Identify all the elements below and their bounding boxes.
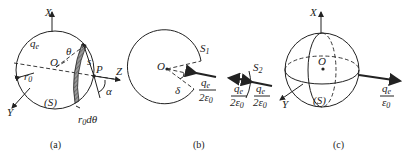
svg-text:qe: qe <box>201 76 211 90</box>
label-x-axis: X <box>44 6 53 18</box>
svg-text:2ε0: 2ε0 <box>199 91 213 105</box>
label-origin: O <box>50 56 58 68</box>
caption-c: (c) <box>333 139 344 151</box>
label-origin-b: O <box>157 60 165 72</box>
label-alpha: α <box>106 85 112 97</box>
svg-text:2ε0: 2ε0 <box>253 96 267 110</box>
surface-s2 <box>246 71 250 98</box>
svg-text:qe: qe <box>382 82 392 96</box>
flux-fraction-1: qe 2ε0 <box>199 76 216 105</box>
flux-fraction-2: qe 2ε0 <box>230 82 247 110</box>
label-theta: θ <box>66 45 72 57</box>
label-ring-width: r0dθ <box>78 113 98 127</box>
caption-b: (b) <box>193 139 205 151</box>
label-s1: S1 <box>200 42 210 56</box>
label-surface-c: (S) <box>313 94 326 107</box>
label-z-axis: Z <box>116 65 123 77</box>
flux-fraction-c: qe ε0 <box>380 82 394 110</box>
label-surface: (S) <box>44 96 57 109</box>
label-x-axis-c: X <box>309 6 318 18</box>
panel-a: X Y Z qe O θ s P α r0 (S) r0dθ (a) <box>7 6 123 151</box>
label-s2: S2 <box>253 61 263 75</box>
svg-text:ε0: ε0 <box>382 96 390 110</box>
label-y-axis: Y <box>7 106 15 118</box>
label-r0: r0 <box>24 70 32 84</box>
label-s: s <box>87 55 91 67</box>
label-delta: δ <box>175 84 181 96</box>
label-origin-c: O <box>318 55 326 67</box>
svg-text:qe: qe <box>234 82 244 96</box>
panel-c: X Y O (S) qe ε0 (c) <box>280 6 400 151</box>
panel-b: S1 S2 O δ qe 2ε0 qe 2ε0 qe 2ε0 (b) <box>127 30 272 151</box>
figure-canvas: X Y Z qe O θ s P α r0 (S) r0dθ (a) S1 S2… <box>0 0 410 159</box>
label-y-axis-c: Y <box>282 98 290 110</box>
label-charge: qe <box>30 37 40 51</box>
label-p: P <box>95 63 103 75</box>
svg-text:2ε0: 2ε0 <box>230 96 244 110</box>
caption-a: (a) <box>50 139 61 151</box>
